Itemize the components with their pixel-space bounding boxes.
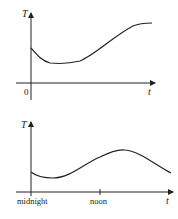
origin-label: 0 xyxy=(24,87,29,97)
graph-top: T t 0 xyxy=(16,8,155,100)
temperature-curve xyxy=(31,150,171,178)
graph-bottom: T t midnight noon xyxy=(16,119,173,206)
tick-label-noon: noon xyxy=(90,196,108,206)
y-axis-label: T xyxy=(21,119,28,130)
x-axis-label: t xyxy=(166,195,169,206)
y-axis-label: T xyxy=(22,8,29,19)
figure: T t 0 T t midnight noon xyxy=(0,0,178,219)
temperature-curve xyxy=(31,23,152,63)
tick-label-midnight: midnight xyxy=(17,196,48,206)
x-axis-label: t xyxy=(148,86,151,97)
